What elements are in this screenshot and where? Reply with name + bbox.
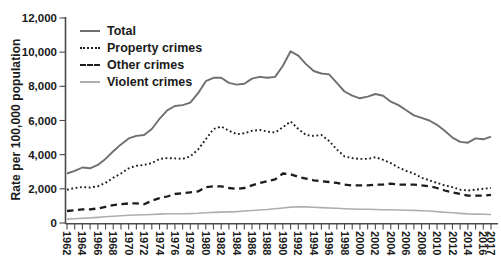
x-tick-label: 2000 <box>354 231 366 255</box>
y-axis-ticks: 02,0004,0006,0008,00010,00012,000 <box>22 12 66 229</box>
x-axis-ticks: 1962196419661968197019721974197619781980… <box>61 224 497 256</box>
legend-swatch-other-crimes <box>80 64 100 66</box>
x-tick-label: 1964 <box>76 231 88 256</box>
y-tick-label: 10,000 <box>22 46 57 58</box>
crime-rate-line-chart: Rate per 100,000 population 02,0004,0006… <box>0 0 501 268</box>
x-tick-label: 1966 <box>92 231 104 255</box>
y-tick-label: 0 <box>51 217 57 229</box>
legend-label: Violent crimes <box>107 75 192 89</box>
y-tick-label: 8,000 <box>28 80 57 92</box>
x-tick-label: 1970 <box>123 231 135 255</box>
legend-row: Property crimes <box>80 39 202 56</box>
series-line-property-crimes <box>67 121 491 190</box>
x-tick-label: 2010 <box>431 231 443 255</box>
x-tick-label: 1986 <box>246 231 258 255</box>
y-tick-label: 12,000 <box>22 12 57 24</box>
legend-swatch-violent-crimes <box>80 81 100 83</box>
x-tick-label: 1996 <box>323 231 335 255</box>
x-tick-label: 1994 <box>308 231 320 256</box>
y-tick-label: 4,000 <box>28 149 57 161</box>
legend-label: Property crimes <box>107 41 202 55</box>
x-tick-label: 1976 <box>169 231 181 255</box>
x-tick-label: 1978 <box>184 231 196 255</box>
x-tick-label: 1990 <box>277 231 289 255</box>
x-tick-label: 2014 <box>462 231 474 256</box>
x-tick-label: 1972 <box>138 231 150 255</box>
legend-swatch-total <box>80 30 100 32</box>
legend-row: Total <box>80 22 202 39</box>
x-tick-label: 2002 <box>369 231 381 255</box>
legend-swatch-property-crimes <box>80 47 100 49</box>
series-line-violent-crimes <box>67 207 491 219</box>
x-tick-label: 1980 <box>200 231 212 255</box>
y-tick-label: 6,000 <box>28 115 57 127</box>
x-tick-label: 1974 <box>154 231 166 256</box>
x-tick-label: 1962 <box>61 231 73 255</box>
legend-row: Other crimes <box>80 56 202 73</box>
y-tick-label: 2,000 <box>28 183 57 195</box>
x-tick-label: 1992 <box>292 231 304 255</box>
x-tick-label: 1982 <box>215 231 227 255</box>
x-tick-label: 1984 <box>231 231 243 256</box>
x-tick-label: 2012 <box>447 231 459 255</box>
chart-svg: 02,0004,0006,0008,00010,00012,000 196219… <box>0 0 501 268</box>
x-tick-label: 1998 <box>339 231 351 255</box>
legend-label: Total <box>107 24 136 38</box>
x-tick-label: 1988 <box>261 231 273 255</box>
legend: TotalProperty crimesOther crimesViolent … <box>80 22 202 90</box>
legend-label: Other crimes <box>107 58 184 72</box>
x-tick-label: 2006 <box>400 231 412 255</box>
x-tick-label: 1968 <box>107 231 119 255</box>
legend-row: Violent crimes <box>80 73 202 90</box>
x-tick-label: 2004 <box>385 231 397 256</box>
x-tick-label: 2017 <box>485 231 497 255</box>
x-tick-label: 2008 <box>416 231 428 255</box>
